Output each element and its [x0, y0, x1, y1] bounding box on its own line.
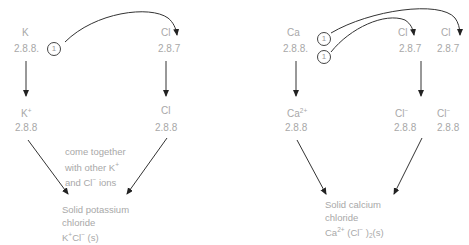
- ion-k-letter: K: [21, 108, 28, 119]
- atom-ca-symbol: Ca: [287, 27, 300, 39]
- ion-cl-1-config: 2.8.8: [394, 122, 416, 134]
- ion-ca-symbol: Ca2+: [287, 105, 307, 120]
- arrow-cl-ions-to-product: [394, 138, 422, 194]
- arrow-k-ion-to-product: [28, 140, 68, 194]
- ion-cl-2-charge: −: [446, 107, 450, 114]
- product-calcium-chloride: Solid calcium chloride Ca2+ (Cl− )2(s): [325, 199, 384, 243]
- formula-state: (s): [373, 227, 384, 238]
- ion-cl-config: 2.8.8: [155, 122, 177, 134]
- atom-cl-1-symbol: Cl: [398, 27, 407, 39]
- formula-state: (s): [85, 232, 99, 243]
- note-k-charge: +: [115, 161, 119, 168]
- formula-open-paren-cl: (Cl: [345, 227, 360, 238]
- note-line-3-text: and Cl: [65, 177, 92, 188]
- atom-cl-2-config: 2.8.7: [437, 43, 459, 55]
- atom-cl-1-config: 2.8.7: [399, 43, 421, 55]
- product-line-2: chloride: [325, 212, 384, 225]
- ion-cl-1-symbol: Cl−: [395, 105, 408, 120]
- note-line-2-text: with other K: [65, 162, 115, 173]
- note-line-1: come together: [65, 146, 126, 159]
- atom-k-config: 2.8.8.: [14, 43, 39, 55]
- come-together-note: come together with other K+ and Cl− ions: [65, 146, 126, 190]
- product-line-2: chloride: [62, 217, 129, 230]
- atom-ca-config: 2.8.8.: [283, 43, 308, 55]
- ion-k-charge: +: [28, 107, 32, 114]
- electron-circle: 1: [47, 42, 61, 56]
- atom-cl-config: 2.8.7: [158, 43, 180, 55]
- note-line-3: and Cl− ions: [65, 174, 126, 190]
- ion-cl-2-symbol: Cl−: [437, 105, 450, 120]
- arrow-ca-ion-to-product: [297, 140, 326, 194]
- ion-ca-config: 2.8.8: [285, 122, 307, 134]
- ion-ca-charge: 2+: [300, 107, 307, 114]
- product-formula-kcl: K+Cl− (s): [62, 229, 129, 245]
- product-line-1: Solid potassium: [62, 204, 129, 217]
- formula-ca: Ca: [325, 227, 337, 238]
- note-line-2: with other K+: [65, 159, 126, 175]
- atom-k-symbol: K: [22, 27, 29, 39]
- ion-cl-2-config: 2.8.8: [437, 122, 459, 134]
- formula-cl: Cl: [72, 232, 81, 243]
- note-line-3-tail: ions: [96, 177, 116, 188]
- ion-ca-letter: Ca: [287, 108, 300, 119]
- product-line-1: Solid calcium: [325, 199, 384, 212]
- product-potassium-chloride: Solid potassium chloride K+Cl− (s): [62, 204, 129, 245]
- arrow-cl-ion-to-product: [127, 138, 167, 194]
- formula-ca-charge: 2+: [337, 226, 344, 233]
- electron-circle-2: 1: [317, 50, 331, 64]
- ion-cl-1-charge: −: [404, 107, 408, 114]
- ionic-bonding-diagram: K 2.8.8. 1 Cl 2.8.7 K+ 2.8.8 Cl 2.8.8 co…: [0, 0, 469, 245]
- atom-cl-symbol: Cl: [161, 27, 170, 39]
- product-formula-cacl2: Ca2+ (Cl− )2(s): [325, 224, 384, 243]
- ion-cl-symbol: Cl: [161, 105, 170, 117]
- ion-k-symbol: K+: [21, 105, 31, 120]
- electron-circle-1: 1: [317, 32, 331, 46]
- ion-k-config: 2.8.8: [15, 122, 37, 134]
- atom-cl-2-symbol: Cl: [441, 27, 450, 39]
